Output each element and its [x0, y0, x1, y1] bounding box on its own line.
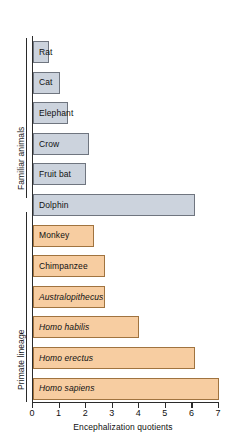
bar-monkey: Monkey: [33, 225, 94, 247]
x-tick-label: 2: [78, 409, 92, 418]
bar-dolphin: Dolphin: [33, 194, 195, 216]
bar-label: Cat: [34, 78, 53, 87]
bar-rat: Rat: [33, 41, 49, 63]
group-bracket-familiar-animals: [26, 38, 27, 198]
x-axis-title: Encephalization quotients: [0, 422, 246, 432]
bar-cat: Cat: [33, 72, 60, 94]
bar-australopithecus: Australopithecus: [33, 286, 105, 308]
group-label-familiar-animals: Familiar animals: [17, 127, 26, 190]
group-bracket-primate-lineage: [26, 212, 27, 402]
bar-label: Rat: [34, 48, 53, 57]
bar-label: Homo habilis: [34, 323, 89, 332]
bar-homo-habilis: Homo habilis: [33, 316, 139, 338]
bar-label: Elephant: [34, 109, 73, 118]
bar-chart: Familiar animals Primate lineage RatCatE…: [0, 0, 246, 438]
bar-label: Monkey: [34, 231, 69, 240]
x-tick-label: 7: [211, 409, 225, 418]
x-tick-label: 3: [105, 409, 119, 418]
group-label-primate-lineage: Primate lineage: [17, 329, 26, 390]
bar-fruit-bat: Fruit bat: [33, 163, 86, 185]
bar-label: Dolphin: [34, 201, 69, 210]
plot-area: RatCatElephantCrowFruit batDolphinMonkey…: [33, 36, 218, 403]
x-tick-label: 4: [131, 409, 145, 418]
x-tick-label: 6: [184, 409, 198, 418]
x-tick-label: 1: [52, 409, 66, 418]
bar-label: Australopithecus: [34, 293, 103, 302]
x-tick-label: 5: [158, 409, 172, 418]
bar-elephant: Elephant: [33, 102, 68, 124]
bar-label: Crow: [34, 140, 59, 149]
bar-crow: Crow: [33, 133, 89, 155]
bar-homo-sapiens: Homo sapiens: [33, 378, 219, 400]
bar-label: Chimpanzee: [34, 262, 88, 271]
bar-chimpanzee: Chimpanzee: [33, 255, 105, 277]
bar-homo-erectus: Homo erectus: [33, 347, 195, 369]
bar-label: Homo sapiens: [34, 384, 95, 393]
bar-label: Fruit bat: [34, 170, 71, 179]
x-tick-label: 0: [25, 409, 39, 418]
bar-label: Homo erectus: [34, 354, 93, 363]
